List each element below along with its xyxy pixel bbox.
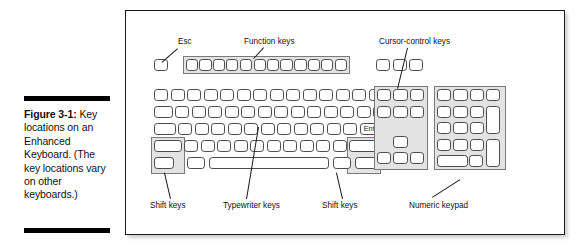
key-row3-2[interactable] [195, 123, 209, 135]
key-row4-10[interactable] [333, 140, 347, 152]
key-function-f8[interactable] [280, 59, 292, 71]
key-cursor-nav-6[interactable] [410, 106, 424, 118]
key-row1-6[interactable] [237, 89, 251, 101]
key-numpad-plus[interactable] [486, 106, 500, 135]
key-arrow-bottom-3[interactable] [410, 152, 424, 164]
key-function-f3[interactable] [213, 59, 225, 71]
key-function-f10[interactable] [308, 59, 320, 71]
key-numpad-digit-7[interactable] [437, 139, 451, 151]
key-row1-5[interactable] [220, 89, 234, 101]
key-row3-3[interactable] [211, 123, 225, 135]
key-cursor-control-top-3[interactable] [409, 59, 423, 71]
key-cursor-control-top-1[interactable] [376, 59, 390, 71]
key-row3-10[interactable] [327, 123, 341, 135]
key-function-f5[interactable] [240, 59, 252, 71]
key-cursor-nav-4[interactable] [377, 106, 391, 118]
key-tab[interactable] [154, 106, 173, 118]
key-row2-5[interactable] [241, 106, 255, 118]
key-row4-5[interactable] [250, 140, 264, 152]
key-function-f6[interactable] [254, 59, 266, 71]
key-arrow-bottom-1[interactable] [377, 152, 391, 164]
key-row1-12[interactable] [336, 89, 350, 101]
key-row2-12[interactable] [357, 106, 371, 118]
key-row4-7[interactable] [283, 140, 297, 152]
key-numpad-decimal[interactable] [469, 155, 483, 167]
caption-rule-bottom [24, 228, 110, 233]
key-alt-right[interactable] [333, 157, 351, 169]
key-row1-7[interactable] [253, 89, 267, 101]
key-row1-10[interactable] [303, 89, 317, 101]
leader-shift-keys-right [336, 173, 343, 199]
key-cursor-nav-5[interactable] [393, 106, 407, 118]
key-row2-9[interactable] [307, 106, 321, 118]
key-cursor-nav-1[interactable] [377, 89, 391, 101]
leader-esc [161, 48, 178, 63]
key-numpad-top-2[interactable] [453, 89, 467, 101]
key-cursor-nav-2[interactable] [393, 89, 407, 101]
key-row3-8[interactable] [294, 123, 308, 135]
key-caps-lock[interactable] [154, 123, 176, 135]
key-row1-1[interactable] [154, 89, 168, 101]
key-function-f11[interactable] [321, 59, 333, 71]
annotation-esc: Esc [178, 37, 192, 46]
key-numpad-top-3[interactable] [470, 89, 484, 101]
key-arrow-up[interactable] [393, 136, 407, 148]
key-row3-1[interactable] [178, 123, 192, 135]
key-row3-4[interactable] [228, 123, 242, 135]
key-row4-9[interactable] [316, 140, 330, 152]
keyboard-diagram: EnterEscFunction keysCursor-control keys… [126, 11, 564, 234]
key-row2-3[interactable] [208, 106, 222, 118]
key-shift-left[interactable] [154, 140, 182, 152]
key-row2-1[interactable] [175, 106, 189, 118]
key-row2-11[interactable] [340, 106, 354, 118]
annotation-numeric-keypad: Numeric keypad [409, 201, 468, 210]
key-numpad-enter[interactable] [486, 139, 500, 168]
key-numpad-digit-4[interactable] [437, 122, 451, 134]
key-row3-9[interactable] [310, 123, 324, 135]
key-numpad-digit-1[interactable] [437, 106, 451, 118]
key-row1-11[interactable] [319, 89, 333, 101]
key-row1-2[interactable] [171, 89, 185, 101]
leader-shift-keys-left [164, 173, 171, 199]
key-row4-4[interactable] [234, 140, 248, 152]
key-numpad-digit-5[interactable] [453, 122, 467, 134]
key-numpad-digit-8[interactable] [453, 139, 467, 151]
key-row2-8[interactable] [291, 106, 305, 118]
key-cursor-nav-3[interactable] [410, 89, 424, 101]
key-row2-7[interactable] [274, 106, 288, 118]
key-row2-4[interactable] [225, 106, 239, 118]
key-row4-1[interactable] [184, 140, 198, 152]
key-numpad-digit-2[interactable] [453, 106, 467, 118]
key-function-f2[interactable] [199, 59, 211, 71]
key-row3-11[interactable] [343, 123, 357, 135]
key-row2-6[interactable] [258, 106, 272, 118]
key-numpad-digit-3[interactable] [470, 106, 484, 118]
key-numpad-digit-6[interactable] [470, 122, 484, 134]
key-spacebar[interactable] [209, 157, 329, 169]
key-alt-left[interactable] [187, 157, 205, 169]
key-row2-2[interactable] [192, 106, 206, 118]
key-row1-8[interactable] [270, 89, 284, 101]
key-row4-2[interactable] [201, 140, 215, 152]
key-row4-3[interactable] [217, 140, 231, 152]
key-row3-6[interactable] [261, 123, 275, 135]
key-arrow-bottom-2[interactable] [393, 152, 407, 164]
key-function-f9[interactable] [294, 59, 306, 71]
key-row3-7[interactable] [277, 123, 291, 135]
key-function-f7[interactable] [267, 59, 279, 71]
key-row1-13[interactable] [352, 89, 366, 101]
key-row4-8[interactable] [300, 140, 314, 152]
key-row4-6[interactable] [267, 140, 281, 152]
key-row2-10[interactable] [324, 106, 338, 118]
key-row1-9[interactable] [286, 89, 300, 101]
key-numpad-top-4[interactable] [486, 89, 500, 101]
key-function-f4[interactable] [226, 59, 238, 71]
key-function-f12[interactable] [335, 59, 347, 71]
key-row1-3[interactable] [187, 89, 201, 101]
key-numpad-top-1[interactable] [437, 89, 451, 101]
key-row1-4[interactable] [204, 89, 218, 101]
key-numpad-zero[interactable] [437, 155, 468, 167]
key-numpad-digit-9[interactable] [470, 139, 484, 151]
key-function-f1[interactable] [186, 59, 198, 71]
key-ctrl-left[interactable] [154, 157, 174, 169]
